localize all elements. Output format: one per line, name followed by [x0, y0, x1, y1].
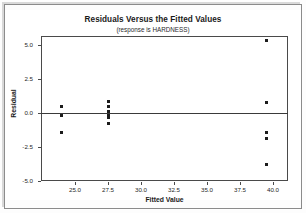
data-point — [60, 114, 63, 117]
x-tick-label: 37.5 — [228, 186, 252, 193]
y-tick-label: -5.0 — [15, 177, 33, 184]
y-tick-mark — [38, 45, 41, 46]
x-tick-label: 32.5 — [162, 186, 186, 193]
data-point — [107, 100, 110, 103]
chart-title: Residuals Versus the Fitted Values — [0, 15, 306, 24]
zero-reference-line — [41, 113, 288, 114]
y-tick-label: 2.5 — [15, 75, 33, 82]
data-point — [265, 131, 268, 134]
plot-area — [41, 36, 288, 181]
y-tick-mark — [38, 79, 41, 80]
x-tick-mark — [75, 182, 76, 185]
x-tick-mark — [273, 182, 274, 185]
x-tick-label: 30.0 — [129, 186, 153, 193]
x-tick-label: 25.0 — [63, 186, 87, 193]
data-point — [60, 105, 63, 108]
data-point — [60, 131, 63, 134]
data-point — [265, 163, 268, 166]
y-tick-label: -2.5 — [15, 143, 33, 150]
y-tick-mark — [38, 147, 41, 148]
x-tick-mark — [174, 182, 175, 185]
x-tick-mark — [240, 182, 241, 185]
data-point — [107, 105, 110, 108]
y-tick-label: 0.0 — [15, 109, 33, 116]
x-tick-label: 35.0 — [195, 186, 219, 193]
x-tick-mark — [141, 182, 142, 185]
x-axis-title: Fitted Value — [41, 196, 288, 203]
y-axis-title: Residual — [10, 74, 17, 134]
x-tick-label: 40.0 — [261, 186, 285, 193]
data-point — [107, 122, 110, 125]
x-tick-mark — [207, 182, 208, 185]
y-tick-mark — [38, 181, 41, 182]
x-tick-label: 27.5 — [96, 186, 120, 193]
data-point — [107, 116, 110, 119]
y-tick-label: 5.0 — [15, 41, 33, 48]
scanned-page: Residuals Versus the Fitted Values (resp… — [0, 0, 306, 213]
data-point — [265, 39, 268, 42]
x-tick-mark — [108, 182, 109, 185]
data-point — [265, 101, 268, 104]
data-point — [265, 137, 268, 140]
chart-subtitle: (response is HARDNESS) — [0, 26, 306, 33]
